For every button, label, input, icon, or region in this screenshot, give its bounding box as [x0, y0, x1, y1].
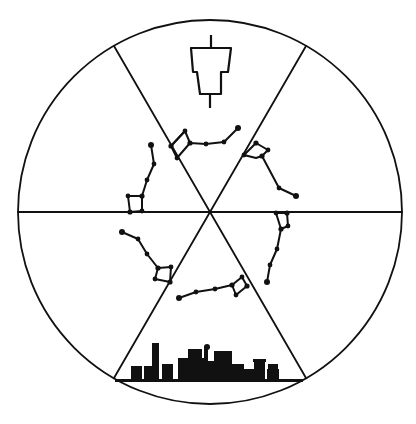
- diagram-canvas: Rotation of the Big Dipper around the po…: [0, 0, 416, 424]
- lantern-tower-icon: [191, 35, 231, 108]
- diagram-svg: [0, 0, 416, 424]
- big-dipper-lower-left: [122, 232, 171, 282]
- city-skyline-icon: [115, 343, 303, 382]
- big-dipper-left: [128, 145, 154, 212]
